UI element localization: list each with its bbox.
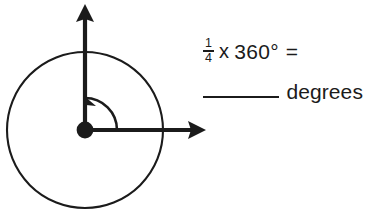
- fraction-denominator: 4: [204, 52, 213, 65]
- worksheet-canvas: 1 4 x 360° = degrees: [0, 0, 366, 213]
- expression-line: 1 4 x 360° =: [203, 36, 363, 66]
- equals-symbol: =: [286, 41, 298, 62]
- operand-value: 360°: [234, 41, 279, 62]
- unit-label: degrees: [286, 81, 363, 102]
- answer-line: degrees: [203, 72, 363, 102]
- fraction-one-fourth: 1 4: [203, 37, 214, 66]
- vertex-dot: [77, 122, 94, 139]
- multiplication-symbol: x: [219, 41, 229, 61]
- answer-blank-field[interactable]: [203, 95, 279, 98]
- problem-statement: 1 4 x 360° = degrees: [203, 36, 363, 102]
- fraction-numerator: 1: [204, 37, 213, 50]
- angle-figure: [0, 0, 366, 213]
